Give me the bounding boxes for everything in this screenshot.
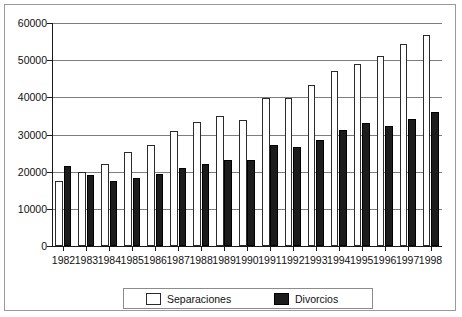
bar-divorcios-1997 — [408, 119, 416, 246]
x-tick-label-1984: 1984 — [98, 255, 121, 266]
bar-separaciones-1990 — [239, 120, 247, 246]
x-tick-mark-1986 — [155, 246, 156, 251]
legend-swatch-divorcios-icon — [274, 293, 289, 305]
bar-separaciones-1993 — [308, 85, 316, 246]
x-tick-label-1990: 1990 — [235, 255, 258, 266]
x-tick-mark-1998 — [431, 246, 432, 251]
x-tick-label-1983: 1983 — [75, 255, 98, 266]
bar-divorcios-1987 — [179, 168, 187, 246]
x-tick-mark-1983 — [86, 246, 87, 251]
bar-separaciones-1988 — [193, 122, 201, 246]
bar-divorcios-1993 — [316, 140, 324, 246]
bar-separaciones-1997 — [400, 44, 408, 246]
x-tick-mark-1988 — [201, 246, 202, 251]
legend-item-divorcios: Divorcios — [274, 292, 338, 306]
chart-legend: Separaciones Divorcios — [123, 288, 373, 309]
x-tick-mark-1992 — [293, 246, 294, 251]
x-tick-label-1988: 1988 — [189, 255, 212, 266]
x-tick-label-1993: 1993 — [304, 255, 327, 266]
x-tick-label-1982: 1982 — [52, 255, 75, 266]
x-tick-label-1997: 1997 — [396, 255, 419, 266]
x-tick-label-1987: 1987 — [166, 255, 189, 266]
bar-separaciones-1995 — [354, 64, 362, 246]
y-tick-label-10000: 10000 — [18, 204, 47, 215]
x-axis-tick-marks — [52, 246, 442, 252]
bar-divorcios-1994 — [339, 130, 347, 246]
bar-divorcios-1998 — [431, 112, 439, 246]
x-tick-mark-1985 — [132, 246, 133, 251]
x-tick-mark-1991 — [270, 246, 271, 251]
y-tick-label-50000: 50000 — [18, 55, 47, 66]
bar-separaciones-1992 — [285, 98, 293, 246]
bar-separaciones-1983 — [78, 172, 86, 246]
y-axis-tick-labels: 0100002000030000400005000060000 — [5, 23, 47, 246]
legend-item-separaciones: Separaciones — [146, 292, 231, 306]
x-tick-label-1989: 1989 — [212, 255, 235, 266]
x-axis-tick-labels: 1982198319841985198619871988198919901991… — [52, 255, 442, 271]
bar-separaciones-1984 — [101, 164, 109, 247]
bar-separaciones-1996 — [377, 56, 385, 246]
x-tick-mark-1987 — [178, 246, 179, 251]
bar-separaciones-1998 — [423, 35, 431, 246]
x-tick-mark-1994 — [339, 246, 340, 251]
x-tick-mark-1984 — [109, 246, 110, 251]
y-tick-label-30000: 30000 — [18, 129, 47, 140]
bar-divorcios-1990 — [247, 160, 255, 246]
plot-area — [52, 23, 442, 246]
x-tick-label-1996: 1996 — [373, 255, 396, 266]
x-tick-label-1985: 1985 — [121, 255, 144, 266]
legend-label-divorcios: Divorcios — [295, 294, 338, 305]
bar-separaciones-1987 — [170, 131, 178, 246]
bar-separaciones-1994 — [331, 71, 339, 246]
bars-layer — [52, 23, 442, 246]
bar-divorcios-1984 — [110, 181, 118, 246]
y-tick-label-20000: 20000 — [18, 166, 47, 177]
legend-swatch-separaciones-icon — [146, 293, 161, 305]
x-tick-label-1991: 1991 — [258, 255, 281, 266]
x-tick-mark-1996 — [385, 246, 386, 251]
x-tick-mark-1990 — [247, 246, 248, 251]
bar-divorcios-1983 — [87, 175, 95, 246]
y-tick-label-40000: 40000 — [18, 92, 47, 103]
bar-divorcios-1988 — [202, 164, 210, 247]
bar-divorcios-1992 — [293, 147, 301, 246]
bar-separaciones-1985 — [124, 152, 132, 246]
x-tick-mark-1982 — [63, 246, 64, 251]
x-tick-label-1986: 1986 — [144, 255, 167, 266]
y-tick-label-60000: 60000 — [18, 18, 47, 29]
x-tick-mark-1995 — [362, 246, 363, 251]
bar-divorcios-1982 — [64, 166, 72, 246]
legend-label-separaciones: Separaciones — [167, 294, 231, 305]
bar-divorcios-1991 — [270, 145, 278, 246]
x-tick-mark-1993 — [316, 246, 317, 251]
bar-divorcios-1986 — [156, 174, 164, 246]
x-tick-mark-1989 — [224, 246, 225, 251]
bar-separaciones-1989 — [216, 116, 224, 246]
bar-divorcios-1989 — [224, 160, 232, 246]
bar-separaciones-1982 — [55, 181, 63, 246]
x-tick-mark-1997 — [408, 246, 409, 251]
bar-divorcios-1995 — [362, 123, 370, 246]
bar-separaciones-1991 — [262, 98, 270, 246]
bar-divorcios-1985 — [133, 178, 141, 246]
bar-divorcios-1996 — [385, 126, 393, 246]
x-tick-label-1995: 1995 — [350, 255, 373, 266]
x-tick-label-1994: 1994 — [327, 255, 350, 266]
bar-separaciones-1986 — [147, 145, 155, 246]
x-tick-label-1992: 1992 — [281, 255, 304, 266]
x-tick-label-1998: 1998 — [419, 255, 442, 266]
chart-frame: 0100002000030000400005000060000 19821983… — [4, 4, 456, 311]
